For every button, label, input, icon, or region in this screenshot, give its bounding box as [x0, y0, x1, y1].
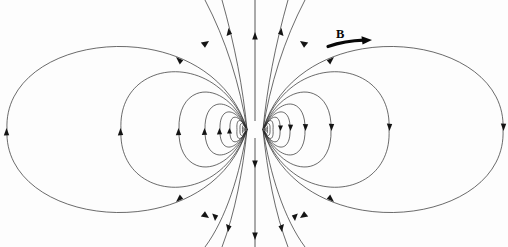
- direction-arrowhead: [327, 194, 334, 202]
- b-field-annotation: B: [328, 27, 372, 47]
- b-field-label: B: [336, 27, 344, 41]
- direction-arrowhead: [217, 128, 222, 134]
- direction-arrowhead: [202, 128, 207, 135]
- field-line-open: [263, 0, 305, 130]
- direction-arrowhead: [118, 128, 123, 135]
- field-line-loop: [263, 104, 305, 155]
- pole-marker-left: [245, 128, 248, 131]
- field-line-loop: [263, 46, 503, 212]
- field-line-open: [263, 130, 288, 247]
- field-line-loop: [121, 72, 247, 188]
- pole-marker-right: [263, 128, 266, 131]
- b-field-arrow-shaft: [328, 40, 364, 46]
- field-line-loop: [205, 104, 247, 155]
- direction-arrowhead: [4, 128, 9, 136]
- direction-arrowhead: [226, 224, 232, 232]
- direction-arrowhead: [329, 124, 334, 131]
- direction-arrowhead: [252, 233, 258, 241]
- field-line-diagram: B: [0, 0, 508, 247]
- direction-arrowhead: [292, 214, 298, 221]
- direction-arrowhead: [387, 124, 392, 131]
- direction-arrowhead: [279, 224, 285, 232]
- right-lobe-group: [263, 46, 503, 212]
- direction-arrowhead: [327, 57, 334, 65]
- direction-arrowhead: [176, 128, 181, 135]
- direction-arrowhead: [176, 194, 183, 202]
- direction-arrowhead: [212, 214, 218, 221]
- field-line-loop: [7, 46, 247, 212]
- direction-arrowhead: [300, 211, 308, 218]
- left-lobe-group: [7, 46, 247, 212]
- b-field-arrow-head: [362, 36, 373, 44]
- pole-marker-group: [245, 128, 266, 131]
- direction-arrowhead: [303, 124, 308, 131]
- field-line-open: [205, 0, 247, 130]
- direction-arrowhead: [278, 125, 283, 131]
- direction-arrowhead: [288, 125, 293, 131]
- direction-arrowhead: [201, 41, 209, 48]
- magnetic-dipole-figure: B: [0, 0, 508, 247]
- direction-arrowhead: [300, 41, 308, 48]
- direction-arrowhead: [176, 57, 183, 65]
- direction-arrowhead: [252, 32, 258, 40]
- field-line-loop: [263, 72, 389, 188]
- direction-arrowhead: [252, 161, 258, 169]
- field-line-open: [205, 130, 247, 247]
- direction-arrowhead: [227, 128, 232, 134]
- field-line-open: [263, 130, 305, 247]
- direction-arrowhead: [501, 124, 506, 132]
- direction-arrowhead: [201, 211, 209, 218]
- field-line-open: [222, 130, 247, 247]
